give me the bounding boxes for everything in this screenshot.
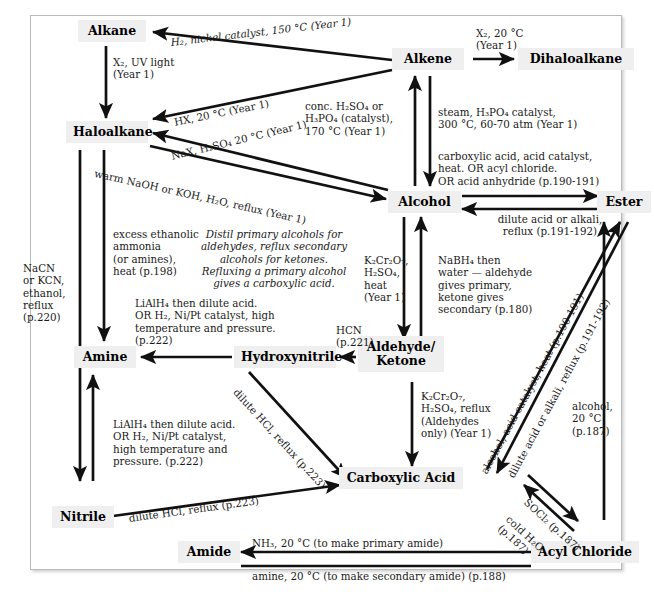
- label-nitrile-to-amine: LiAlH₄ then dilute acid. OR H₂, Ni/Pt ca…: [113, 418, 235, 467]
- node-alkane[interactable]: Alkane: [78, 20, 146, 42]
- label-acyl-to-amide-primary: NH₃, 20 °C (to make primary amide): [252, 537, 443, 549]
- label-alcohol-to-aldehyde: K₂Cr₂O₇, H₂SO₄, heat (Year 1): [364, 254, 409, 303]
- node-alkene[interactable]: Alkene: [392, 48, 464, 70]
- label-haloalkane-to-amine: excess ethanolic ammonia (or amines), he…: [113, 228, 199, 277]
- label-acyl-to-amide-secondary: amine, 20 °C (to make secondary amide) (…: [252, 570, 506, 582]
- label-alkene-to-dihaloalkane: X₂, 20 °C (Year 1): [476, 27, 523, 52]
- node-dihaloalkane[interactable]: Dihaloalkane: [518, 48, 634, 70]
- node-carboxylic-acid[interactable]: Carboxylic Acid: [339, 467, 463, 489]
- label-haloalkane-to-nitrile: NaCN or KCN, ethanol, reflux (p.220): [23, 262, 65, 324]
- node-ester[interactable]: Ester: [597, 191, 651, 213]
- node-amine[interactable]: Amine: [74, 346, 136, 368]
- node-amide[interactable]: Amide: [178, 541, 240, 563]
- arrow-alcohol-to-haloalkane: [153, 133, 388, 190]
- label-distil-note: Distil primary alcohols for aldehydes, r…: [188, 228, 360, 290]
- label-alcohol-to-ester: carboxylic acid, acid catalyst, heat. OR…: [438, 150, 599, 187]
- node-hydroxynitrile[interactable]: Hydroxynitrile: [234, 346, 336, 368]
- node-acyl-chloride[interactable]: Acyl Chloride: [531, 541, 639, 563]
- label-acyl-chloride-to-ester: alcohol, 20 °C (p.187): [572, 400, 613, 437]
- label-alkane-to-haloalkane: X₂, UV light (Year 1): [113, 56, 174, 81]
- label-alkene-to-alcohol: steam, H₃PO₄ catalyst, 300 °C, 60-70 atm…: [438, 106, 577, 131]
- node-haloalkane[interactable]: Haloalkane: [66, 121, 148, 143]
- label-aldehyde-to-hydroxynitrile: HCN (p.221): [336, 324, 374, 349]
- label-aldehyde-to-acid: K₂Cr₂O₇, H₂SO₄, reflux (Aldehydes only) …: [421, 390, 491, 439]
- node-alcohol[interactable]: Alcohol: [388, 191, 461, 213]
- node-nitrile[interactable]: Nitrile: [52, 506, 114, 528]
- reaction-scheme-page: Alkane Alkene Dihaloalkane Haloalkane Al…: [0, 0, 654, 596]
- label-aldehyde-to-alcohol: NaBH₄ then water — aldehyde gives primar…: [438, 254, 532, 316]
- label-ester-to-alcohol: dilute acid or alkali, reflux (p.191-192…: [470, 213, 630, 238]
- label-hydroxynitrile-to-amine: LiAlH₄ then dilute acid. OR H₂, Ni/Pt ca…: [135, 297, 276, 346]
- label-haloalkane-to-alkene: conc. H₂SO₄ or H₃PO₄ (catalyst), 170 °C …: [305, 100, 393, 137]
